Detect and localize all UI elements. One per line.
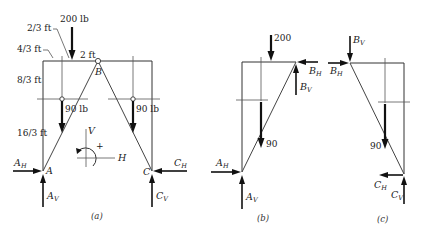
panel-b: 200 BH BV 90 AH AV (b) — [211, 33, 322, 223]
dim-2-3-ft: 2/3 ft — [27, 23, 52, 33]
reaction-BV-label-b: BV — [299, 81, 313, 94]
arrow-head-icon — [340, 60, 349, 66]
panel-c: BV BH 90 CH CV (c) — [328, 34, 410, 224]
dim-16-3-ft: 16/3 ft — [17, 128, 47, 138]
arrow-head-icon — [69, 50, 76, 60]
member-BC-c — [350, 63, 404, 174]
reaction-AV-label: AV — [46, 190, 60, 203]
reaction-BV-label-c: BV — [352, 34, 366, 47]
arrow-head-icon — [347, 53, 353, 62]
point-A-label: A — [45, 165, 53, 176]
arrow-head-icon — [268, 51, 275, 61]
load-200lb-label: 200 lb — [60, 14, 89, 24]
reaction-CV-label: CV — [156, 190, 169, 203]
arrow-head-icon — [297, 59, 306, 65]
arrow-head-icon — [379, 172, 388, 178]
load-90-label-c: 90 — [370, 141, 382, 151]
load-90lb-right-label: 90 lb — [136, 104, 159, 114]
reaction-AV-label-b: AV — [245, 191, 259, 204]
frame-diagram: 200 lb 2/3 ft 4/3 ft 2 ft 8/3 ft 16/3 ft… — [0, 0, 423, 235]
arrow-head-icon — [258, 138, 265, 148]
reaction-AH-label: AH — [13, 157, 27, 170]
reaction-BH-label-b: BH — [308, 65, 322, 78]
svg-text:V: V — [88, 125, 96, 136]
reaction-CH-label: CH — [174, 157, 187, 170]
load-90lb-left-label: 90 lb — [65, 104, 88, 114]
svg-text:H: H — [117, 152, 127, 163]
frame-outline-a — [43, 61, 152, 171]
sign-convention-icon: V H + — [76, 125, 127, 167]
arrow-head-icon — [401, 176, 407, 185]
arrow-head-icon — [239, 175, 245, 184]
dim-2-ft: 2 ft — [80, 50, 96, 60]
arrow-head-icon — [232, 169, 241, 175]
arrow-head-icon — [153, 168, 162, 174]
panel-a: 200 lb 2/3 ft 4/3 ft 2 ft 8/3 ft 16/3 ft… — [13, 14, 187, 221]
member-AB-b — [242, 62, 296, 172]
reaction-CH-label-c: CH — [374, 179, 387, 192]
pin-left-hanger — [60, 97, 64, 101]
dim-8-3-ft: 8/3 ft — [17, 75, 42, 85]
pin-right-hanger — [131, 97, 135, 101]
caption-c: (c) — [377, 214, 388, 224]
caption-b: (b) — [257, 213, 269, 223]
leader-2-3-ft — [53, 29, 69, 58]
member-AB — [43, 61, 98, 171]
point-C-label: C — [143, 166, 151, 177]
dim-4-3-ft: 4/3 ft — [17, 44, 42, 54]
pin-B — [95, 58, 100, 63]
arrow-head-icon — [382, 139, 389, 149]
reaction-BH-label-c: BH — [329, 65, 343, 78]
leader-4-3-ft — [43, 50, 53, 58]
load-200-label-b: 200 — [274, 33, 291, 43]
point-B-label: B — [94, 66, 102, 77]
load-90-label-b: 90 — [266, 139, 278, 149]
reaction-AH-label-b: AH — [215, 157, 229, 170]
caption-a: (a) — [91, 211, 103, 221]
reaction-CV-label-c: CV — [391, 189, 404, 202]
arrow-head-icon — [33, 168, 42, 174]
svg-text:+: + — [96, 141, 104, 151]
